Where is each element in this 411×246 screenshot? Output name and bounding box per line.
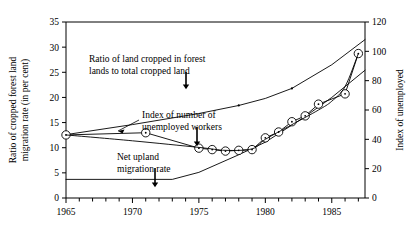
annotation-unemployed-index-line: Index of number of	[142, 110, 216, 120]
annotation-net-upland-line: Net upland	[117, 152, 159, 162]
y-tick-label-left: 25	[50, 68, 60, 78]
y-tick-label-right: 100	[372, 47, 387, 57]
marker-center-dot	[344, 93, 346, 95]
marker-center-dot	[145, 132, 147, 134]
annotation-net-upland-arrow-head-icon	[152, 182, 158, 187]
x-tick-label: 1980	[256, 207, 275, 217]
y-tick-label-left: 20	[50, 93, 60, 103]
marker-center-dot	[291, 121, 293, 123]
y-axis-left-title: Ratio of cropped forest landmigration ra…	[8, 56, 31, 163]
y-tick-label-left: 35	[50, 17, 60, 27]
data-point-marker	[221, 147, 229, 155]
y-tick-label-left: 10	[50, 143, 60, 153]
y-tick-label-left: 0	[54, 193, 59, 203]
line-vertex-dot	[238, 104, 240, 106]
x-tick-label: 1965	[57, 207, 76, 217]
y-tick-label-left: 15	[50, 118, 60, 128]
y-tick-label-right: 80	[372, 76, 382, 86]
annotation-unemployed-index-line: unemployed workers	[142, 122, 222, 132]
data-point-marker	[314, 100, 322, 108]
marker-center-dot	[304, 115, 306, 117]
x-tick-label: 1975	[189, 207, 208, 217]
y-tick-label-right: 20	[372, 164, 382, 174]
y-tick-label-left: 5	[54, 168, 59, 178]
annotation-ratio-forest-line: lands to total cropped land	[89, 66, 190, 76]
annotation-ratio-forest-line: Ratio of land cropped in forest	[89, 54, 206, 64]
x-tick-label: 1970	[123, 207, 142, 217]
marker-center-dot	[318, 103, 320, 105]
annotation-ratio-forest-arrow-head-icon	[183, 84, 189, 89]
y-tick-label-right: 120	[372, 17, 387, 27]
y-tick-label-right: 60	[372, 105, 382, 115]
y-tick-label-right: 40	[372, 135, 382, 145]
annotation-unemployed-index: Index of number ofunemployed workers	[142, 110, 222, 146]
y-tick-label-left: 30	[50, 43, 60, 53]
annotation-net-upland-line: migration rate	[117, 164, 171, 174]
annotation-net-upland: Net uplandmigration rate	[117, 152, 171, 187]
annotation-ratio-forest: Ratio of land cropped in forestlands to …	[89, 54, 206, 89]
x-tick-label: 1985	[322, 207, 341, 217]
chart-figure: 0510152025303502040608010012019651970197…	[0, 0, 411, 246]
y-axis-left-title-line: migration rate (in per cent)	[20, 59, 31, 161]
y-tick-label-right: 0	[372, 193, 377, 203]
annotation-leader-line	[118, 120, 139, 131]
y-axis-left-title-line: Ratio of cropped forest land	[8, 56, 18, 163]
chart-canvas: 0510152025303502040608010012019651970197…	[0, 0, 411, 246]
line-vertex-dot	[291, 87, 293, 89]
y-axis-right-title: Index of unemployed	[395, 69, 405, 151]
